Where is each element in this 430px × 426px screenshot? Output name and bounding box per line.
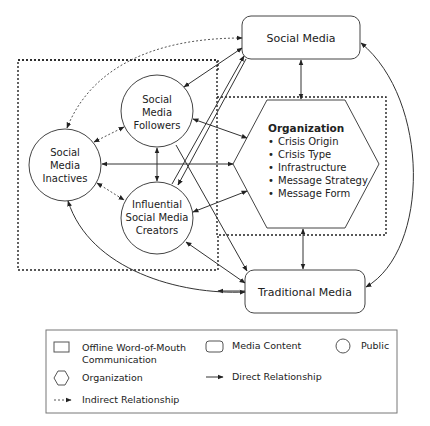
factor-message-form: Message Form — [278, 188, 350, 199]
svg-text:Social: Social — [50, 147, 80, 158]
factor-crisis-type: Crisis Type — [278, 149, 331, 160]
svg-text:•: • — [268, 136, 274, 147]
svg-text:Direct Relationship: Direct Relationship — [232, 371, 322, 382]
crisis-communication-diagram: Social Media Traditional Media Organizat… — [0, 0, 430, 426]
legend-organization-icon — [54, 371, 69, 385]
traditional-media-label: Traditional Media — [257, 286, 352, 299]
svg-text:Public: Public — [361, 340, 389, 351]
svg-text:•: • — [268, 162, 274, 173]
legend-media-content-icon — [206, 341, 223, 352]
svg-text:Organization: Organization — [82, 372, 143, 383]
offline-wom-region-left — [18, 60, 218, 71]
svg-text:Media Content: Media Content — [232, 340, 302, 351]
svg-text:Social Media: Social Media — [126, 212, 189, 223]
svg-text:•: • — [268, 149, 274, 160]
svg-text:•: • — [268, 175, 274, 186]
factor-infrastructure: Infrastructure — [278, 162, 346, 173]
svg-text:Creators: Creators — [136, 225, 179, 236]
svg-text:Media: Media — [50, 160, 80, 171]
svg-text:Influential: Influential — [132, 199, 182, 210]
svg-text:Indirect Relationship: Indirect Relationship — [82, 394, 179, 405]
svg-text:Followers: Followers — [134, 120, 181, 131]
svg-text:Communication: Communication — [82, 354, 157, 365]
organization-title: Organization — [268, 122, 344, 134]
svg-text:•: • — [268, 188, 274, 199]
svg-text:Social: Social — [142, 94, 172, 105]
social-media-label: Social Media — [266, 32, 335, 45]
legend-offline-wom-icon — [54, 342, 69, 352]
legend-public-icon — [336, 339, 350, 353]
svg-text:Offline Word-of-Mouth: Offline Word-of-Mouth — [82, 342, 186, 353]
svg-text:Media: Media — [142, 107, 172, 118]
factor-message-strategy: Message Strategy — [278, 175, 368, 186]
factor-crisis-origin: Crisis Origin — [278, 136, 338, 147]
svg-text:Inactives: Inactives — [43, 173, 88, 184]
legend: Offline Word-of-Mouth Communication Medi… — [46, 330, 397, 413]
